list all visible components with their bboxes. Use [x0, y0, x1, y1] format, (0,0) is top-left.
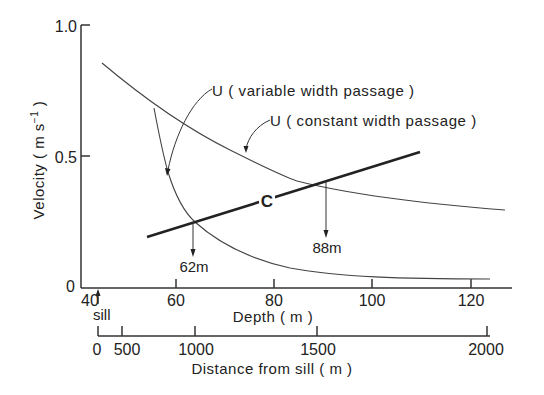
leader-arrow-variable-icon	[165, 89, 212, 176]
arrow-62m-icon	[191, 222, 196, 257]
y-axis-title-close: )	[30, 101, 47, 111]
velocity-depth-chart: 1.0 0.5 0 Velocity ( m s−1 ) 40 60 80 10…	[0, 0, 544, 395]
x-tick-60: 60	[167, 292, 185, 309]
x-tick-120: 120	[458, 292, 485, 309]
y-axis-title-text: Velocity ( m s	[30, 123, 47, 219]
x-tick-80: 80	[265, 292, 283, 309]
line-c	[147, 152, 420, 237]
dist-tick-1000: 1000	[178, 341, 214, 358]
dist-tick-500: 500	[114, 341, 141, 358]
y-axis-title-exp: −1	[29, 111, 40, 123]
depth-88m-label: 88m	[312, 239, 341, 256]
y-axis	[81, 25, 90, 288]
dist-tick-1500: 1500	[300, 341, 336, 358]
arrow-88m-icon	[324, 181, 329, 238]
x-axis-distance	[98, 326, 490, 336]
x-axis-title: Depth ( m )	[233, 308, 314, 325]
c-label: C	[261, 192, 273, 211]
x-axis-depth	[81, 279, 512, 288]
y-tick-0.5: 0.5	[55, 149, 77, 166]
svg-text:Velocity ( m s−1 ): Velocity ( m s−1 )	[29, 101, 47, 220]
sill-label: sill	[93, 306, 111, 323]
depth-62m-label: 62m	[179, 258, 208, 275]
x-tick-100: 100	[359, 292, 386, 309]
distance-axis-title: Distance from sill ( m )	[191, 360, 352, 377]
dist-tick-0: 0	[93, 341, 102, 358]
y-tick-1.0: 1.0	[55, 18, 77, 35]
label-u-constant-width: U ( constant width passage )	[270, 112, 477, 129]
y-axis-title: Velocity ( m s−1 )	[29, 101, 47, 220]
y-tick-0: 0	[66, 278, 75, 295]
label-u-variable-width: U ( variable width passage )	[212, 82, 415, 99]
dist-tick-2000: 2000	[468, 341, 504, 358]
leader-arrow-constant-icon	[244, 120, 271, 153]
